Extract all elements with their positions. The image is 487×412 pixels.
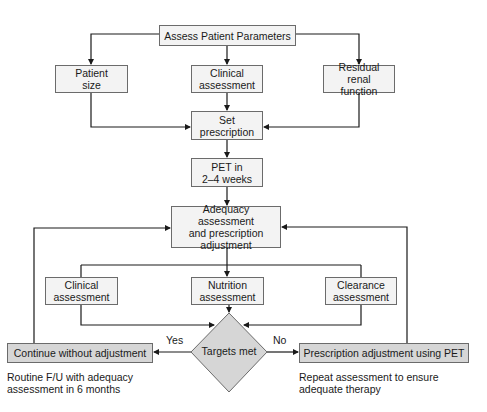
set-prescription-box: Set prescription [191,111,263,140]
patient-size-box: Patient size [55,65,128,93]
yes-note: Routine F/U with adequacy assessment in … [7,371,133,395]
no-note: Repeat assessment to ensure adequate the… [299,371,439,395]
assess-patient-parameters-box: Assess Patient Parameters [159,25,296,46]
nutrition-assessment-box: Nutrition assessment [191,277,264,305]
yes-label: Yes [166,334,183,346]
residual-renal-function-box: Residual renal function [323,65,395,93]
prescription-adjustment-box: Prescription adjustment using PET [299,343,469,363]
targets-met-label: Targets met [191,345,267,357]
continue-without-adjustment-box: Continue without adjustment [7,343,153,363]
clinical-assessment-box: Clinical assessment [45,277,118,305]
pet-box: PET in 2–4 weeks [191,158,263,187]
adequacy-assessment-box: Adequacy assessment and prescription adj… [171,206,281,248]
flowchart: Assess Patient Parameters Patient size C… [0,0,487,412]
no-label: No [273,334,286,346]
clearance-assessment-box: Clearance assessment [325,277,397,305]
clinical-assessment-input-box: Clinical assessment [191,65,263,93]
